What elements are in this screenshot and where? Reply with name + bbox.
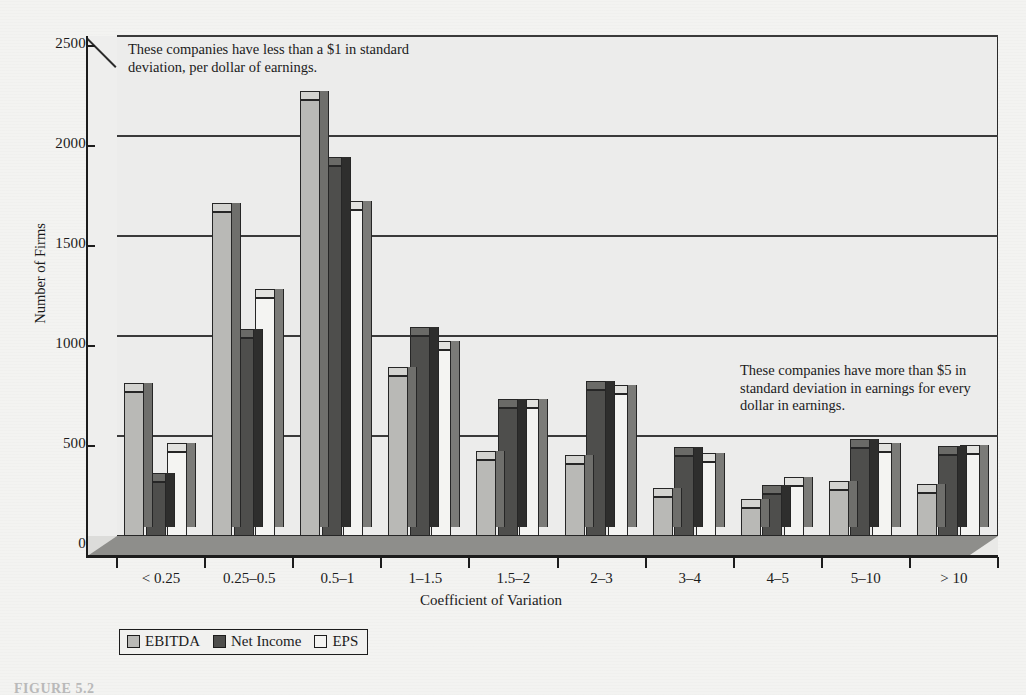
bar-side (496, 451, 505, 527)
bar-side (187, 443, 196, 527)
legend-swatch (213, 635, 226, 648)
bar-side (275, 289, 284, 527)
x-axis-tick-mark (468, 557, 470, 568)
bar-top (762, 485, 782, 494)
bar-top (476, 451, 496, 460)
bar-top (565, 455, 585, 464)
bar-ebitda (653, 497, 673, 536)
y-axis-tick-label: 500 (40, 435, 86, 452)
bar-top (498, 399, 518, 408)
bar-side (518, 399, 527, 527)
legend-label: EBITDA (145, 633, 200, 650)
legend-swatch (127, 635, 140, 648)
bar-face (741, 508, 761, 536)
bar-face (653, 497, 673, 536)
x-axis-tick-label: < 0.25 (142, 570, 180, 587)
y-axis-line (86, 36, 88, 557)
x-axis-tick-label: 1.5–2 (497, 570, 531, 587)
bar-side (870, 439, 879, 527)
plot-floor-right-bevel (967, 536, 998, 557)
bar-side (958, 446, 967, 527)
plot-floor (86, 536, 998, 557)
gridline (117, 135, 998, 136)
plot-depth-top-edge (86, 36, 119, 69)
bar-top (917, 484, 937, 493)
bar-side (342, 157, 351, 527)
bar-face (212, 212, 232, 536)
bar-side (585, 455, 594, 527)
bar-side (628, 385, 637, 527)
plot-depth-wall (86, 36, 117, 556)
x-axis-tick-label: 3–4 (678, 570, 701, 587)
bar-ebitda (388, 376, 408, 536)
x-axis-tick-label: 0.25–0.5 (223, 570, 276, 587)
y-axis-tick-label: 2000 (40, 135, 86, 152)
bar-ebitda (476, 460, 496, 536)
bar-top (829, 481, 849, 490)
bar-ebitda (212, 212, 232, 536)
x-axis-title: Coefficient of Variation (420, 592, 562, 609)
annotation-high-variation: These companies have more than $5 in sta… (740, 362, 1002, 415)
x-axis-tick-mark (292, 557, 294, 568)
bar-face (917, 493, 937, 536)
bar-side (451, 341, 460, 527)
legend-item-net-income: Net Income (213, 633, 301, 650)
x-axis-tick-label: 4–5 (767, 570, 790, 587)
annotation-low-variation: These companies have less than a $1 in s… (128, 41, 428, 76)
bar-side (232, 203, 241, 527)
gridline (117, 235, 998, 236)
y-axis-tick: 2000 (26, 145, 86, 146)
bar-side (144, 383, 153, 527)
bar-top (410, 327, 430, 336)
x-axis-tick-mark (557, 557, 559, 568)
bar-face (388, 376, 408, 536)
x-axis-tick-label: 2–3 (590, 570, 613, 587)
legend-label: EPS (332, 633, 358, 650)
bar-ebitda (829, 490, 849, 536)
bar-top (300, 91, 320, 100)
x-axis-tick-mark (204, 557, 206, 568)
bar-face (300, 100, 320, 536)
bar-top (124, 383, 144, 392)
bar-side (320, 91, 329, 527)
x-axis-tick-label: > 10 (940, 570, 967, 587)
bar-face (476, 460, 496, 536)
bar-top (741, 499, 761, 508)
x-axis-tick-mark (380, 557, 382, 568)
x-axis-tick-mark (821, 557, 823, 568)
bar-side (716, 453, 725, 527)
chart-legend: EBITDANet IncomeEPS (119, 629, 368, 655)
bar-side (849, 481, 858, 527)
bar-top (674, 447, 694, 456)
bar-ebitda (124, 392, 144, 536)
bar-side (254, 329, 263, 527)
y-axis-tick-label: 0 (40, 535, 86, 552)
y-axis-tick: 0 (26, 545, 86, 546)
bar-side (539, 399, 548, 527)
bar-side (804, 477, 813, 527)
bar-ebitda (565, 464, 585, 536)
bar-top (586, 381, 606, 390)
bar-side (782, 485, 791, 527)
bar-ebitda (917, 493, 937, 536)
x-axis-tick-mark (997, 557, 999, 568)
legend-label: Net Income (231, 633, 301, 650)
y-axis-tick-label: 2500 (40, 35, 86, 52)
bar-side (761, 499, 770, 527)
bar-top (388, 367, 408, 376)
x-axis-tick-mark (733, 557, 735, 568)
y-axis-tick: 2500 (26, 45, 86, 46)
y-axis-title: Number of Firms (32, 174, 49, 374)
x-axis-tick-mark (645, 557, 647, 568)
bar-side (937, 484, 946, 527)
legend-swatch (314, 635, 327, 648)
bar-top (653, 488, 673, 497)
bar-side (694, 447, 703, 527)
x-axis-tick-mark (116, 557, 118, 568)
x-axis-tick-label: 0.5–1 (320, 570, 354, 587)
bar-top (167, 443, 187, 452)
figure-chart: 05001000150020002500 < 0.250.25–0.50.5–1… (0, 0, 1026, 695)
legend-item-eps: EPS (314, 633, 358, 650)
bar-side (363, 201, 372, 527)
bar-face (829, 490, 849, 536)
